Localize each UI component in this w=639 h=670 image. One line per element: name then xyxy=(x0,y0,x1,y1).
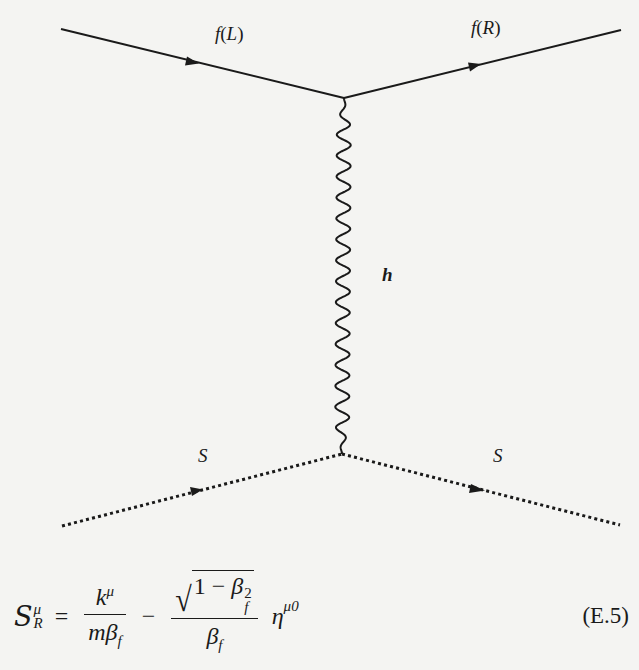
eq-equals: = xyxy=(55,603,69,630)
label-fermion-right: f(R) xyxy=(471,17,501,39)
equation-body: S μ R = kμ mβf − √ 1 − β2f βf ημ0 xyxy=(14,566,299,666)
arrow-icon xyxy=(185,57,199,66)
graviton-wavy-line xyxy=(335,98,350,454)
eq-eta-term: ημ0 xyxy=(272,602,299,630)
eta-symbol: η xyxy=(272,603,284,629)
fermion-line-left xyxy=(61,29,344,98)
arrow-icon xyxy=(468,63,481,72)
sqrt: √ 1 − β2f xyxy=(175,570,253,614)
k-symbol: k xyxy=(96,584,107,610)
eq-minus: − xyxy=(142,603,156,630)
fermion-line-right xyxy=(344,30,621,98)
eq-frac2-numerator: √ 1 − β2f xyxy=(171,570,257,618)
k-sup: μ xyxy=(107,583,115,599)
beta-symbol: β xyxy=(206,623,218,649)
label-fermion-left: f(L) xyxy=(215,23,244,45)
equation-number: (E.5) xyxy=(582,566,629,666)
label-arg: L xyxy=(227,23,238,44)
beta-symbol: β xyxy=(106,619,118,645)
scalar-line-right xyxy=(342,454,620,525)
label-arg: R xyxy=(483,17,495,38)
beta-sub: f xyxy=(218,637,222,653)
eq-frac1-denominator: mβf xyxy=(84,615,125,658)
beta-sup: 2 xyxy=(244,586,252,600)
eq-fraction-1: kμ mβf xyxy=(84,574,125,658)
beta-sub: f xyxy=(118,633,122,649)
eq-lhs-symbol: S xyxy=(14,601,33,632)
beta-sub: f xyxy=(244,600,252,614)
eq-lhs-indices: μ R xyxy=(34,602,43,630)
paren-close: ) xyxy=(494,17,500,38)
radicand: 1 − β2f xyxy=(192,570,254,614)
feynman-diagram xyxy=(0,0,639,560)
label-scalar-left: S xyxy=(198,445,208,467)
eq-frac1-numerator: kμ xyxy=(92,574,118,614)
eq-fraction-2: √ 1 − β2f βf xyxy=(171,570,257,662)
beta-symbol: β xyxy=(231,573,243,599)
eq-lhs-sup: μ xyxy=(34,602,43,616)
eq-lhs-sub: R xyxy=(34,616,43,630)
eq-frac2-denominator: βf xyxy=(202,619,226,662)
radicand-prefix: 1 − xyxy=(194,573,232,599)
equation-e5: S μ R = kμ mβf − √ 1 − β2f βf ημ0 (E.5) xyxy=(14,566,629,666)
label-mediator: h xyxy=(382,264,393,286)
beta-indices: 2f xyxy=(244,586,252,614)
m-symbol: m xyxy=(88,619,105,645)
eta-sup: μ0 xyxy=(284,598,299,614)
paren-close: ) xyxy=(237,23,243,44)
radical-icon: √ xyxy=(175,582,191,617)
label-scalar-right: S xyxy=(493,445,503,467)
